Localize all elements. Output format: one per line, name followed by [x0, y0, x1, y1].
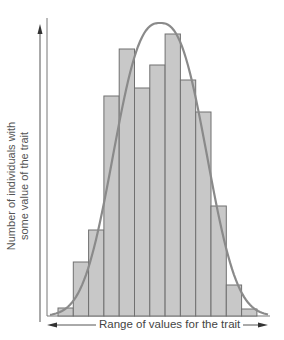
histogram-bar — [150, 65, 165, 316]
x-axis-label: Range of values for the trait — [96, 318, 243, 330]
histogram-bar — [135, 88, 150, 316]
histogram-bar — [180, 80, 195, 316]
histogram-bar — [211, 206, 226, 316]
left-arrowhead-icon — [47, 323, 57, 328]
histogram-bar — [196, 112, 211, 316]
histogram-bar — [104, 96, 119, 316]
histogram-bar — [165, 34, 180, 316]
histogram-chart — [0, 0, 284, 340]
y-axis-arrowhead-icon — [38, 24, 43, 34]
right-arrowhead-icon — [258, 323, 268, 328]
histogram-bars — [58, 34, 257, 316]
